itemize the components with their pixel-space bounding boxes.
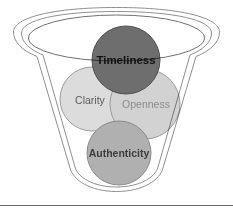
node-label-openness: Openness [122, 98, 170, 110]
node-label-authenticity: Authenticity [89, 147, 150, 159]
node-label-timeliness: Timeliness [96, 54, 155, 66]
funnel-venn-diagram: Timeliness Clarity Openness Authenticity [0, 0, 233, 218]
diagram-canvas: Timeliness Clarity Openness Authenticity [0, 0, 233, 218]
node-label-clarity: Clarity [75, 94, 106, 106]
